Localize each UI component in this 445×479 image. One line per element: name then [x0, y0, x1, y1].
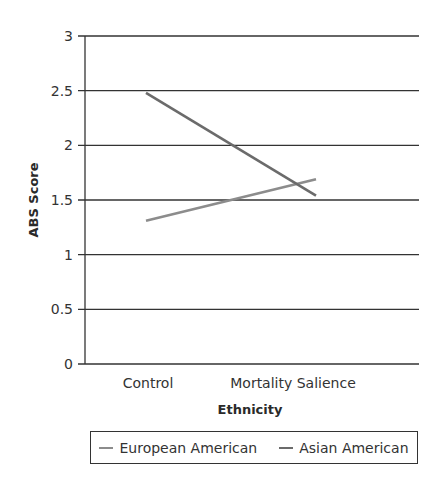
legend-item-european-american: European American: [99, 440, 257, 456]
x-tick-label: Mortality Salience: [230, 375, 356, 391]
legend-swatch-european-american: [99, 447, 113, 449]
y-axis-title: ABS Score: [26, 162, 41, 237]
legend-label: Asian American: [299, 440, 408, 456]
x-tick-label: Control: [123, 375, 174, 391]
y-tick-label: 2: [64, 137, 73, 153]
y-tick-label: 0: [64, 356, 73, 372]
gridlines: [78, 36, 419, 364]
series-line-asian-american: [146, 93, 316, 196]
legend: European American Asian American: [90, 431, 418, 464]
y-tick-label: 1.5: [51, 192, 73, 208]
y-tick-label: 2.5: [51, 83, 73, 99]
y-axis-ticks: 00.511.522.53: [51, 28, 73, 372]
y-tick-label: 0.5: [51, 301, 73, 317]
x-axis-title: Ethnicity: [218, 402, 283, 417]
legend-label: European American: [119, 440, 257, 456]
data-series: [146, 93, 316, 221]
x-axis-ticks: ControlMortality Salience: [123, 375, 356, 391]
legend-item-asian-american: Asian American: [279, 440, 408, 456]
y-tick-label: 1: [64, 247, 73, 263]
legend-swatch-asian-american: [279, 447, 293, 449]
y-tick-label: 3: [64, 28, 73, 44]
